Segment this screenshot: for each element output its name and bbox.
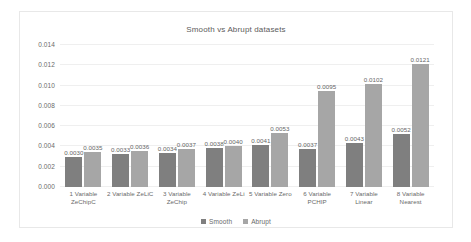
bar-slot: 0.0037 bbox=[299, 45, 316, 187]
bar-abrupt[interactable]: 0.0040 bbox=[225, 146, 242, 187]
bar-value-label: 0.0043 bbox=[345, 135, 364, 142]
y-axis-tick-label: 0.000 bbox=[38, 183, 55, 190]
y-axis-tick-label: 0.002 bbox=[38, 162, 55, 169]
bar-abrupt[interactable]: 0.0035 bbox=[84, 152, 101, 188]
bar-slot: 0.0036 bbox=[131, 45, 148, 187]
bar-abrupt[interactable]: 0.0121 bbox=[412, 64, 429, 187]
y-axis-tick-label: 0.004 bbox=[38, 142, 55, 149]
bar-abrupt[interactable]: 0.0095 bbox=[318, 91, 335, 187]
category-label: 1 Variable ZeChipC bbox=[60, 190, 107, 216]
y-axis-tick-label: 0.014 bbox=[38, 41, 55, 48]
bar-abrupt[interactable]: 0.0102 bbox=[365, 84, 382, 187]
bar-abrupt[interactable]: 0.0053 bbox=[271, 133, 288, 187]
bar-slot: 0.0040 bbox=[225, 45, 242, 187]
bar-slot: 0.0030 bbox=[65, 45, 82, 187]
y-axis-tick-label: 0.012 bbox=[38, 61, 55, 68]
bar-value-label: 0.0041 bbox=[251, 137, 270, 144]
bar-value-label: 0.0035 bbox=[83, 144, 102, 151]
bar-group: 0.00370.0095 bbox=[294, 45, 341, 187]
chart-legend: SmoothAbrupt bbox=[20, 218, 452, 225]
bar-value-label: 0.0036 bbox=[130, 143, 149, 150]
bar-value-label: 0.0121 bbox=[411, 56, 430, 63]
bar-value-label: 0.0053 bbox=[270, 125, 289, 132]
category-label: 4 Variable ZeLi bbox=[200, 190, 247, 216]
bar-group: 0.00300.0035 bbox=[60, 45, 107, 187]
bar-smooth[interactable]: 0.0033 bbox=[112, 154, 129, 187]
bar-slot: 0.0038 bbox=[206, 45, 223, 187]
bar-value-label: 0.0030 bbox=[64, 149, 83, 156]
y-axis-tick-label: 0.010 bbox=[38, 81, 55, 88]
bar-abrupt[interactable]: 0.0037 bbox=[178, 149, 195, 187]
bar-slot: 0.0037 bbox=[178, 45, 195, 187]
category-label: 3 Variable ZeChip bbox=[154, 190, 201, 216]
bar-slot: 0.0041 bbox=[252, 45, 269, 187]
bar-smooth[interactable]: 0.0052 bbox=[393, 134, 410, 187]
legend-label: Abrupt bbox=[251, 218, 271, 225]
legend-label: Smooth bbox=[209, 218, 232, 225]
bar-value-label: 0.0102 bbox=[364, 76, 383, 83]
y-axis-tick-label: 0.006 bbox=[38, 122, 55, 129]
bar-group: 0.00410.0053 bbox=[247, 45, 294, 187]
category-label: 5 Variable Zero bbox=[247, 190, 294, 216]
bar-value-label: 0.0040 bbox=[224, 138, 243, 145]
bar-slot: 0.0095 bbox=[318, 45, 335, 187]
bar-value-label: 0.0033 bbox=[111, 146, 130, 153]
bar-group: 0.00380.0040 bbox=[200, 45, 247, 187]
bar-value-label: 0.0037 bbox=[177, 141, 196, 148]
bar-groups: 0.00300.00350.00330.00360.00340.00370.00… bbox=[60, 45, 434, 187]
bar-value-label: 0.0037 bbox=[298, 141, 317, 148]
bar-slot: 0.0102 bbox=[365, 45, 382, 187]
bar-slot: 0.0043 bbox=[346, 45, 363, 187]
bar-group: 0.00430.0102 bbox=[341, 45, 388, 187]
bar-value-label: 0.0034 bbox=[158, 145, 177, 152]
bar-smooth[interactable]: 0.0038 bbox=[206, 148, 223, 187]
bar-group: 0.00340.0037 bbox=[154, 45, 201, 187]
category-label: 6 Variable PCHIP bbox=[294, 190, 341, 216]
legend-item-abrupt[interactable]: Abrupt bbox=[243, 218, 271, 225]
bar-smooth[interactable]: 0.0043 bbox=[346, 143, 363, 187]
chart-title: Smooth vs Abrupt datasets bbox=[20, 25, 452, 34]
bar-slot: 0.0034 bbox=[159, 45, 176, 187]
chart-container: Smooth vs Abrupt datasets 0.0000.0020.00… bbox=[19, 11, 453, 228]
bar-value-label: 0.0095 bbox=[317, 83, 336, 90]
bar-abrupt[interactable]: 0.0036 bbox=[131, 151, 148, 188]
bar-slot: 0.0033 bbox=[112, 45, 129, 187]
bar-slot: 0.0053 bbox=[271, 45, 288, 187]
bar-value-label: 0.0052 bbox=[392, 126, 411, 133]
bar-smooth[interactable]: 0.0030 bbox=[65, 157, 82, 187]
bar-slot: 0.0035 bbox=[84, 45, 101, 187]
category-axis: 1 Variable ZeChipC2 Variable ZeLiC3 Vari… bbox=[60, 190, 434, 216]
bar-smooth[interactable]: 0.0037 bbox=[299, 149, 316, 187]
y-axis-tick-label: 0.008 bbox=[38, 101, 55, 108]
legend-swatch-icon bbox=[243, 219, 248, 224]
plot-area: 0.0000.0020.0040.0060.0080.0100.0120.014… bbox=[60, 45, 434, 187]
category-label: 2 Variable ZeLiC bbox=[107, 190, 154, 216]
bar-slot: 0.0052 bbox=[393, 45, 410, 187]
category-label: 8 Variable Nearest bbox=[387, 190, 434, 216]
bar-smooth[interactable]: 0.0041 bbox=[252, 145, 269, 187]
bar-value-label: 0.0038 bbox=[205, 140, 224, 147]
legend-swatch-icon bbox=[201, 219, 206, 224]
bar-smooth[interactable]: 0.0034 bbox=[159, 153, 176, 187]
category-label: 7 Variable Linear bbox=[341, 190, 388, 216]
bar-group: 0.00330.0036 bbox=[107, 45, 154, 187]
bar-slot: 0.0121 bbox=[412, 45, 429, 187]
bar-group: 0.00520.0121 bbox=[387, 45, 434, 187]
legend-item-smooth[interactable]: Smooth bbox=[201, 218, 232, 225]
